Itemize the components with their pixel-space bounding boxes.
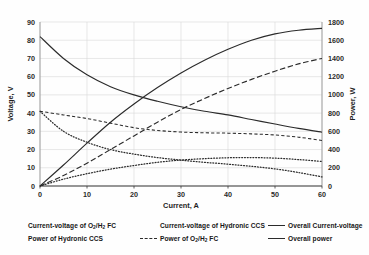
y-axis-tick-label: 20 <box>27 145 35 154</box>
chart-figure: 0102030405060708090020040060080010001200… <box>0 0 369 255</box>
y2-axis-tick-label: 800 <box>328 109 340 118</box>
legend-item: Overall Current-voltage <box>268 219 362 232</box>
y2-axis-tick-label: 1000 <box>328 90 344 99</box>
x-axis-title: Current, A <box>163 201 200 210</box>
y-axis-tick-label: 80 <box>27 36 35 45</box>
legend-column-3: Overall Current-voltageOverall power <box>268 219 362 245</box>
legend-column-1: Current-voltage of O2/H2 FCPower of Hydr… <box>8 219 116 245</box>
legend-marker-dashed-icon <box>8 221 25 230</box>
y-axis-tick-label: 10 <box>27 163 35 172</box>
legend-item-label: Overall Current-voltage <box>288 221 362 230</box>
y-axis-tick-label: 0 <box>31 182 35 191</box>
x-axis-tick-label: 30 <box>177 190 185 199</box>
x-axis-tick-label: 10 <box>83 190 91 199</box>
legend-item: Overall power <box>268 232 362 245</box>
y-axis-tick-label: 60 <box>27 72 35 81</box>
legend-item-label: Overall power <box>288 234 332 243</box>
legend-item-label: Power of O2/H2 FC <box>160 234 218 244</box>
y-axis-title: Voltage, V <box>6 86 15 121</box>
chart-legend: Current-voltage of O2/H2 FCPower of Hydr… <box>0 219 369 253</box>
y-axis-tick-label: 50 <box>27 90 35 99</box>
x-axis-tick-label: 20 <box>130 190 138 199</box>
plot-area: 0102030405060708090020040060080010001200… <box>0 0 369 215</box>
legend-marker-dotted-icon <box>140 221 157 230</box>
y2-axis-tick-label: 600 <box>328 127 340 136</box>
legend-item: Current-voltage of Hydronic CCS <box>140 219 265 232</box>
y2-axis-tick-label: 1600 <box>328 36 344 45</box>
x-axis-tick-label: 60 <box>318 190 326 199</box>
y2-axis-tick-label: 200 <box>328 163 340 172</box>
y2-axis-tick-label: 1400 <box>328 54 344 63</box>
legend-item: Current-voltage of O2/H2 FC <box>8 219 116 232</box>
y-axis-tick-label: 30 <box>27 127 35 136</box>
y2-axis-tick-label: 1200 <box>328 72 344 81</box>
legend-item: Power of O2/H2 FC <box>140 232 265 245</box>
y-axis-tick-label: 90 <box>27 18 35 27</box>
legend-item: Power of Hydronic CCS <box>8 232 116 245</box>
y-axis-tick-label: 70 <box>27 54 35 63</box>
x-axis-tick-label: 0 <box>38 190 42 199</box>
x-axis-tick-label: 40 <box>224 190 232 199</box>
legend-item-label: Power of Hydronic CCS <box>28 234 103 243</box>
legend-marker-longdash-icon <box>140 234 157 243</box>
y2-axis-tick-label: 1800 <box>328 18 344 27</box>
x-axis-tick-label: 50 <box>271 190 279 199</box>
legend-marker-solid-icon <box>268 234 285 243</box>
legend-item-label: Current-voltage of O2/H2 FC <box>28 221 116 231</box>
y2-axis-tick-label: 400 <box>328 145 340 154</box>
y-axis-tick-label: 40 <box>27 109 35 118</box>
y2-axis-tick-label: 0 <box>328 182 332 191</box>
legend-marker-solid-icon <box>268 221 285 230</box>
legend-item-label: Current-voltage of Hydronic CCS <box>160 221 265 230</box>
legend-marker-dotted-icon <box>8 234 25 243</box>
y2-axis-title: Power, W <box>348 88 357 121</box>
legend-column-2: Current-voltage of Hydronic CCSPower of … <box>140 219 265 245</box>
chart-svg: 0102030405060708090020040060080010001200… <box>0 0 369 215</box>
